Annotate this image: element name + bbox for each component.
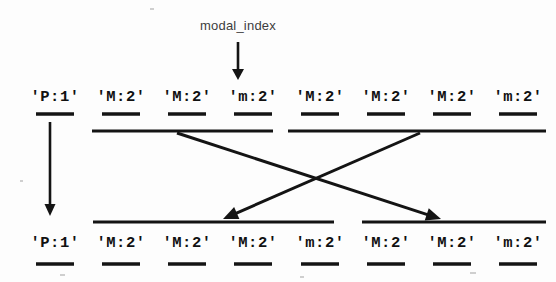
token-label: 'M:2': [96, 88, 145, 106]
diagram-canvas: modal_index 'P:1''M:2''M:2''m:2''M:2''M:…: [0, 0, 556, 282]
token-label: 'M:2': [162, 234, 211, 252]
modal-index-pointer-arrow: [232, 42, 244, 80]
token-label: 'M:2': [361, 234, 410, 252]
connector-left-to-right: [177, 133, 441, 221]
token-label: 'P:1': [30, 234, 79, 252]
token-label: 'M:2': [427, 234, 476, 252]
modal-index-diagram: modal_index 'P:1''M:2''M:2''m:2''M:2''M:…: [0, 0, 556, 282]
token-label: 'm:2': [295, 234, 344, 252]
output-sequence-row: 'P:1''M:2''M:2''M:2''m:2''M:2''M:2''m:2': [30, 234, 542, 264]
connector-shaft: [235, 133, 420, 214]
token-label: 'm:2': [493, 234, 542, 252]
token-label: 'm:2': [228, 88, 277, 106]
carry-down-arrow: [45, 122, 56, 216]
token-label: 'M:2': [162, 88, 211, 106]
input-sequence-row: 'P:1''M:2''M:2''m:2''M:2''M:2''M:2''m:2': [30, 88, 542, 114]
token-label: 'M:2': [228, 234, 277, 252]
token-label: 'm:2': [493, 88, 542, 106]
token-label: 'M:2': [427, 88, 476, 106]
token-label: 'M:2': [96, 234, 145, 252]
modal-index-label: modal_index: [200, 18, 276, 33]
connector-right-to-left: [223, 133, 420, 219]
reorder-connectors: [177, 133, 441, 221]
connector-arrow-head: [425, 208, 441, 220]
token-label: 'M:2': [295, 88, 344, 106]
token-label: 'P:1': [30, 88, 79, 106]
token-label: 'M:2': [361, 88, 410, 106]
